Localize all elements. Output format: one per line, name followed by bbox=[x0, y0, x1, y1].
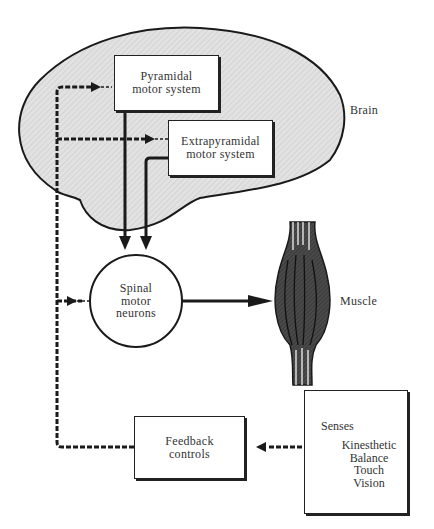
senses-title: Senses bbox=[321, 419, 354, 434]
senses-item: Touch bbox=[329, 464, 409, 477]
feedback-line-1: Feedback bbox=[165, 435, 213, 448]
spinal-line-1: Spinal bbox=[96, 282, 176, 295]
pyramidal-motor-system-node: Pyramidal motor system bbox=[114, 55, 219, 111]
feedback-controls-node: Feedback controls bbox=[134, 416, 245, 479]
extrapyramidal-motor-system-node: Extrapyramidal motor system bbox=[168, 120, 273, 176]
muscle-label: Muscle bbox=[340, 294, 377, 309]
senses-list: Kinesthetic Balance Touch Vision bbox=[329, 439, 409, 489]
arrowhead-senses-to-feedback bbox=[256, 442, 266, 452]
spinal-line-3: neurons bbox=[96, 307, 176, 320]
senses-item: Vision bbox=[329, 477, 409, 490]
brain-label: Brain bbox=[350, 103, 378, 118]
arrowhead-to-spinal bbox=[67, 296, 77, 306]
spinal-to-muscle-arrow bbox=[182, 295, 273, 307]
pyramidal-line-2: motor system bbox=[132, 83, 201, 96]
spinal-motor-neurons-label: Spinal motor neurons bbox=[96, 282, 176, 320]
muscle-illustration bbox=[275, 222, 330, 385]
extrapyramidal-line-2: motor system bbox=[186, 148, 255, 161]
senses-item: Kinesthetic bbox=[329, 439, 409, 452]
feedback-line-2: controls bbox=[169, 448, 210, 461]
senses-node: Senses Kinesthetic Balance Touch Vision bbox=[304, 390, 408, 514]
